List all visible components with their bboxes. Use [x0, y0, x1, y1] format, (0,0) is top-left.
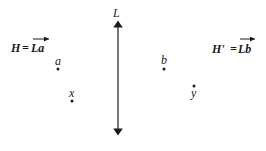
left-half-plane-name: H	[10, 41, 21, 55]
point-x	[71, 100, 74, 103]
line-L-label: L	[112, 6, 120, 20]
right-half-plane-name: H'	[211, 42, 225, 56]
right-equals: =	[230, 42, 237, 56]
diagram-svg: L H = La H' = Lb a x b y	[0, 0, 266, 151]
point-b-label: b	[161, 53, 167, 67]
point-y-label: y	[190, 86, 197, 100]
point-a-label: a	[55, 54, 61, 68]
point-x-label: x	[68, 86, 75, 100]
left-equals: =	[22, 41, 29, 55]
point-a	[57, 68, 60, 71]
right-vector: Lb	[237, 42, 251, 56]
point-b	[163, 68, 166, 71]
left-vector: La	[30, 41, 44, 55]
half-plane-diagram: L H = La H' = Lb a x b y	[0, 0, 266, 151]
